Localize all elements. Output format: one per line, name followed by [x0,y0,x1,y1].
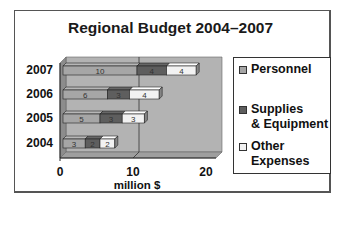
bar-segment: 2 [100,136,118,149]
x-tick-10: 10 [118,165,148,179]
bar-value-label: 2 [90,140,95,149]
legend-label: Other [251,139,284,154]
bar-segment: 10 [63,63,140,76]
bar-segment: 3 [100,111,125,124]
legend-label-line2: Expenses [251,154,309,169]
legend: Personnel Supplies & Equipment Other Exp… [233,57,331,174]
bar-value-label: 3 [72,140,77,149]
x-tick-20: 20 [191,165,221,179]
legend-swatch-other [239,143,247,151]
bar-segment: 4 [137,63,170,76]
bar-value-label: 3 [131,115,136,124]
y-tick-2006: 2006 [13,87,53,101]
bar-value-label: 4 [179,67,184,76]
bar-value-label: 6 [83,91,88,100]
bar-segment: 3 [63,136,88,149]
bar-value-label: 4 [142,91,147,100]
bar-segment: 4 [130,87,163,100]
plot-floor [60,152,222,158]
bar-segment: 3 [122,111,147,124]
legend-swatch-personnel [239,66,247,74]
bar-value-label: 2 [105,140,110,149]
bar-value-label: 3 [116,91,121,100]
bar-segment: 5 [63,111,103,124]
legend-label-line2: & Equipment [251,117,328,132]
legend-label: Personnel [251,62,311,77]
legend-swatch-supplies [239,106,247,114]
y-tick-2007: 2007 [13,63,53,77]
bar-value-label: 5 [79,115,84,124]
bar-value-label: 4 [150,67,155,76]
bar-value-label: 10 [96,67,105,76]
bar-segment: 3 [107,87,132,100]
bar-segment: 4 [167,63,200,76]
x-axis-label: million $ [102,179,172,191]
x-tick-0: 0 [45,165,75,179]
y-tick-2005: 2005 [13,111,53,125]
y-tick-2004: 2004 [13,136,53,150]
legend-label: Supplies [251,102,303,117]
bar-value-label: 3 [109,115,114,124]
bar-segment: 6 [63,87,110,100]
